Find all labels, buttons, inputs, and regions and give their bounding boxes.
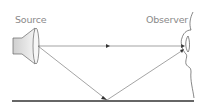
speaker-icon: [13, 28, 39, 64]
ear-face-profile-icon: [181, 12, 194, 98]
sound-path-diagram: [0, 0, 206, 109]
direct-path: [38, 44, 185, 48]
reflected-path: [38, 46, 184, 100]
